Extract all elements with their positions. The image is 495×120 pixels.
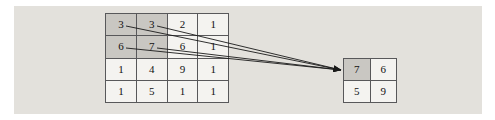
output-cell-r1c0: 5 — [344, 81, 370, 102]
figure-background-panel — [14, 6, 482, 114]
input-cell-r1c2: 6 — [168, 36, 198, 57]
input-feature-map-grid: 3 3 2 1 6 7 6 1 1 4 9 1 1 5 1 1 — [105, 13, 229, 103]
input-cell-r2c2: 9 — [168, 59, 198, 80]
input-cell-r1c0: 6 — [106, 36, 136, 57]
input-cell-r3c2: 1 — [168, 81, 198, 102]
input-cell-r3c3: 1 — [198, 81, 228, 102]
input-cell-r3c1: 5 — [137, 81, 167, 102]
input-cell-r0c2: 2 — [168, 14, 198, 35]
input-cell-r0c1: 3 — [137, 14, 167, 35]
input-cell-r2c0: 1 — [106, 59, 136, 80]
output-cell-r0c0: 7 — [344, 59, 370, 80]
input-cell-r2c1: 4 — [137, 59, 167, 80]
input-cell-r0c0: 3 — [106, 14, 136, 35]
input-cell-r3c0: 1 — [106, 81, 136, 102]
input-cell-r0c3: 1 — [198, 14, 228, 35]
pooled-output-grid: 7 6 5 9 — [343, 58, 397, 103]
input-cell-r2c3: 1 — [198, 59, 228, 80]
output-cell-r0c1: 6 — [371, 59, 397, 80]
figure-root: 3 3 2 1 6 7 6 1 1 4 9 1 1 5 1 1 7 6 5 9 — [0, 0, 495, 120]
input-cell-r1c3: 1 — [198, 36, 228, 57]
input-cell-r1c1: 7 — [137, 36, 167, 57]
output-cell-r1c1: 9 — [371, 81, 397, 102]
